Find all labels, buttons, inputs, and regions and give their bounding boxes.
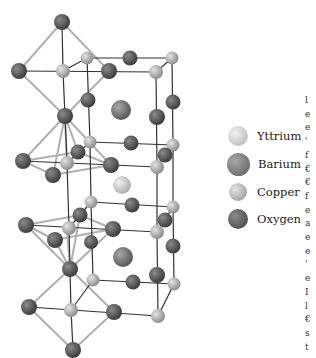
oxygen-atom (149, 109, 165, 125)
oxygen-atom (81, 93, 96, 108)
oxygen-atom (57, 108, 73, 124)
text-fragment: l (305, 300, 315, 314)
text-fragment: e (305, 272, 315, 286)
text-fragment: € (305, 176, 315, 190)
copper-atom (150, 225, 164, 239)
text-fragment: f (305, 149, 315, 163)
oxygen-sphere-icon (228, 209, 248, 229)
copper-atom (56, 64, 70, 78)
text-fragment: l (305, 94, 315, 108)
legend-label: Barium (258, 157, 301, 171)
copper-atom (85, 196, 98, 209)
copper-atom (166, 52, 179, 65)
copper-atom (87, 274, 100, 287)
crystal-structure-diagram (0, 0, 230, 358)
copper-atom (60, 156, 74, 170)
copper-atom (150, 160, 164, 174)
barium-atom (111, 100, 131, 120)
legend-label: Yttrium (257, 129, 301, 143)
text-fragment: s (305, 327, 315, 341)
barium-atom (113, 247, 133, 267)
text-fragment: ' (305, 258, 315, 272)
text-fragment: ' (305, 135, 315, 149)
text-fragment: € (305, 313, 315, 327)
oxygen-atom (126, 275, 141, 290)
oxygen-atom (158, 213, 173, 228)
oxygen-atom (149, 267, 165, 283)
barium-sphere-icon (227, 153, 250, 176)
copper-atom (62, 221, 76, 235)
legend-item-barium: Barium (228, 152, 301, 176)
text-fragment: e (305, 204, 315, 218)
atoms (11, 14, 181, 358)
oxygen-atom (21, 299, 37, 315)
copper-atom (81, 52, 94, 65)
oxygen-atom (158, 148, 173, 163)
legend-item-yttrium: Yttrium (228, 124, 301, 148)
text-fragment: t (305, 341, 315, 355)
oxygen-atom (105, 221, 121, 237)
oxygen-atom (54, 14, 70, 30)
oxygen-atom (166, 239, 181, 254)
oxygen-atom (103, 157, 119, 173)
text-fragment: e (305, 121, 315, 135)
legend-item-oxygen: Oxygen (228, 207, 301, 231)
copper-atom (151, 309, 165, 323)
oxygen-atom (106, 304, 122, 320)
copper-atom (84, 136, 97, 149)
oxygen-atom (166, 95, 181, 110)
yttrium-sphere-icon (228, 126, 248, 146)
oxygen-atom (18, 217, 34, 233)
oxygen-atom (45, 167, 61, 183)
copper-sphere-icon (229, 183, 247, 201)
oxygen-atom (47, 232, 63, 248)
text-fragment: e (305, 245, 315, 259)
text-fragment: e (305, 108, 315, 122)
yttrium-atom (113, 176, 131, 194)
oxygen-atom (101, 63, 117, 79)
text-fragment: f (305, 190, 315, 204)
copper-atom (168, 278, 181, 291)
oxygen-atom (73, 208, 88, 223)
oxygen-atom (124, 136, 139, 151)
legend-item-copper: Copper (228, 180, 300, 204)
copper-atom (167, 201, 180, 214)
oxygen-atom (65, 342, 81, 358)
oxygen-atom (15, 153, 31, 169)
text-fragment: I (305, 286, 315, 300)
cropped-body-text: l e e ' f € € f e a e e ' e I l € s t (305, 94, 315, 354)
oxygen-atom (125, 198, 140, 213)
legend-label: Copper (257, 185, 300, 199)
oxygen-atom (11, 63, 27, 79)
legend-label: Oxygen (257, 212, 301, 226)
oxygen-atom (123, 51, 138, 66)
text-fragment: e (305, 231, 315, 245)
copper-atom (64, 303, 78, 317)
copper-atom (149, 65, 163, 79)
oxygen-atom (84, 235, 98, 249)
text-fragment: € (305, 163, 315, 177)
oxygen-atom (62, 261, 78, 277)
oxygen-atom (71, 145, 86, 160)
text-fragment: a (305, 217, 315, 231)
